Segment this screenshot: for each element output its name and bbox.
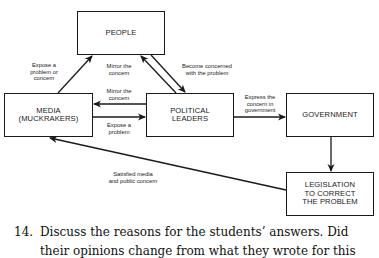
question-line-1: 14.Discuss the reasons for the students’… [14, 225, 348, 239]
question-number: 14. [14, 225, 40, 239]
label-legislation-to-media: Satisfied media and public concern [98, 171, 168, 184]
label-leaders-to-people: Mirror the concern [99, 63, 139, 76]
label-people-to-leaders: Become concerned with the problem [172, 63, 242, 76]
label-media-to-people: Expose a problem or concern [22, 62, 66, 82]
node-political-leaders: POLITICAL LEADERS [146, 93, 234, 137]
label-leaders-to-government: Express the concern in government [238, 94, 282, 114]
label-media-to-leaders: Expose a problem [99, 122, 139, 135]
node-government: GOVERNMENT [286, 93, 374, 137]
node-media: MEDIA (MUCKRAKERS) [4, 93, 93, 137]
node-legislation: LEGISLATION TO CORRECT THE PROBLEM [286, 172, 374, 216]
node-people: PEOPLE [77, 11, 165, 55]
label-leaders-to-media: Mirror the concern [99, 88, 139, 101]
arrow-leaders-to-people [141, 56, 176, 93]
question-line-2: their opinions change from what they wro… [40, 244, 356, 258]
arrow-legislation-to-media [50, 138, 286, 190]
question-text-1: Discuss the reasons for the students’ an… [40, 225, 348, 239]
